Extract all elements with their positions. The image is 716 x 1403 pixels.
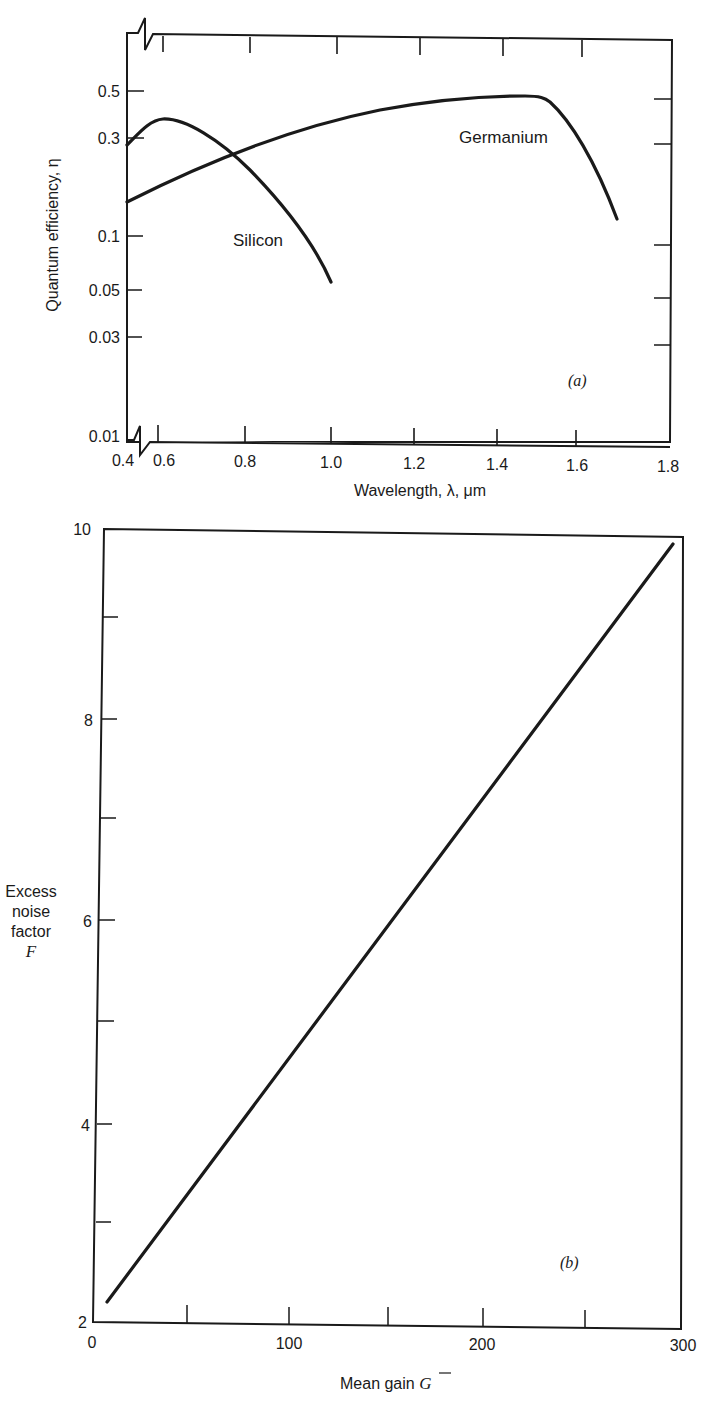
chart-a-x-axis-title: Wavelength, λ, μm — [354, 482, 486, 499]
y-tick-0.05: 0.05 — [89, 282, 120, 299]
y-tick-0.03: 0.03 — [89, 329, 120, 346]
figure: 0.5 0.3 0.1 0.05 0.03 0.01 0.4 0.6 0.8 1… — [0, 0, 716, 1403]
panel-b-label: (b) — [560, 1254, 579, 1272]
x-tick-0.6: 0.6 — [153, 452, 175, 469]
y-axis-title-symbol: F — [25, 942, 37, 961]
chart-b — [93, 529, 683, 1329]
x-tick-0: 0 — [88, 1334, 97, 1351]
x-tick-1.4: 1.4 — [486, 456, 508, 473]
x-axis-title-symbol: G — [419, 1374, 431, 1393]
y-tick-6: 6 — [83, 913, 92, 930]
x-tick-200: 200 — [469, 1336, 496, 1353]
chart-a-left-ticks — [127, 91, 144, 337]
x-tick-1.0: 1.0 — [320, 454, 342, 471]
chart-b-left-ticks — [96, 617, 118, 1222]
y-axis-title-line-2: noise — [12, 903, 50, 920]
panel-a-label: (a) — [568, 372, 587, 390]
y-axis-title-line-1: Excess — [5, 883, 57, 900]
x-axis-title-prefix: Mean gain — [340, 1375, 419, 1392]
chart-b-y-axis-title: Excess noise factor F — [5, 883, 57, 961]
x-tick-100: 100 — [276, 1335, 303, 1352]
chart-a-frame-top — [127, 18, 672, 442]
germanium-curve — [127, 96, 617, 219]
x-tick-1.8: 1.8 — [657, 458, 679, 475]
x-tick-0.8: 0.8 — [234, 453, 256, 470]
chart-b-y-tick-labels: 10 8 6 4 2 — [73, 521, 93, 1331]
y-tick-10: 10 — [73, 521, 91, 538]
y-axis-title-line-3: factor — [11, 923, 52, 940]
y-tick-4: 4 — [81, 1117, 90, 1134]
chart-a-right-ticks — [654, 99, 672, 345]
y-tick-0.01: 0.01 — [89, 428, 120, 445]
chart-b-x-axis-title: Mean gain G — [340, 1373, 451, 1393]
y-tick-8: 8 — [84, 712, 93, 729]
x-tick-300: 300 — [670, 1337, 697, 1354]
x-tick-1.6: 1.6 — [566, 457, 588, 474]
chart-a-bottom-axis — [127, 426, 670, 455]
silicon-label: Silicon — [233, 231, 283, 250]
chart-b-x-tick-labels: 0 100 200 300 — [88, 1334, 697, 1354]
y-tick-0.5: 0.5 — [98, 83, 120, 100]
x-tick-0.4: 0.4 — [112, 452, 134, 469]
svg-text:Mean gain G: Mean gain G — [340, 1374, 431, 1393]
germanium-label: Germanium — [459, 128, 548, 147]
chart-a-x-tick-labels: 0.4 0.6 0.8 1.0 1.2 1.4 1.6 1.8 — [112, 452, 679, 475]
chart-a-y-tick-labels: 0.5 0.3 0.1 0.05 0.03 0.01 — [89, 83, 120, 445]
y-tick-0.1: 0.1 — [98, 228, 120, 245]
y-tick-2: 2 — [78, 1314, 87, 1331]
chart-a-y-axis-title: Quantum efficiency, η — [44, 158, 61, 311]
chart-a — [127, 18, 672, 455]
x-tick-1.2: 1.2 — [403, 455, 425, 472]
silicon-curve — [127, 119, 331, 282]
y-tick-0.3: 0.3 — [98, 130, 120, 147]
noise-factor-line — [107, 544, 673, 1302]
